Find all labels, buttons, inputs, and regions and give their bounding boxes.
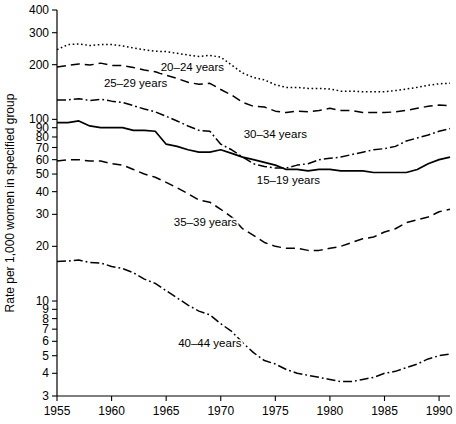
y-tick-label: 400 (29, 3, 49, 17)
series-line-40-44-years (57, 260, 450, 382)
y-tick-label: 30 (36, 207, 50, 221)
y-tick-label: 20 (36, 239, 50, 253)
series-label-15-19-years: 15–19 years (257, 174, 321, 186)
y-tick-label: 300 (29, 26, 49, 40)
series-label-layer: 20–24 years20–24 years25–29 years25–29 y… (104, 61, 320, 349)
x-tick-label: 1970 (207, 404, 234, 418)
x-tick-label: 1990 (426, 404, 453, 418)
series-label-25-29-years: 25–29 years (104, 77, 168, 89)
y-tick-label: 3 (42, 389, 49, 403)
y-tick-label: 40 (36, 185, 50, 199)
series-layer (57, 44, 450, 382)
y-tick-label: 50 (36, 167, 50, 181)
x-tick-label: 1960 (98, 404, 125, 418)
y-tick-label: 6 (42, 334, 49, 348)
y-tick-label: 200 (29, 58, 49, 72)
y-tick-label: 5 (42, 349, 49, 363)
y-tick-label: 4 (42, 366, 49, 380)
x-tick-label: 1965 (153, 404, 180, 418)
y-axis-title: Rate per 1,000 women in specified group (3, 93, 17, 312)
x-tick-label: 1975 (262, 404, 289, 418)
series-label-30-34-years: 30–34 years (244, 128, 308, 140)
x-tick-label: 1955 (44, 404, 71, 418)
series-label-35-39-years: 35–39 years (174, 216, 238, 228)
series-label-20-24-years: 20–24 years (161, 61, 225, 73)
y-axis-title-text: Rate per 1,000 women in specified group (3, 93, 17, 312)
x-tick-label: 1985 (371, 404, 398, 418)
series-label-40-44-years: 40–44 years (178, 337, 242, 349)
chart-figure: 4003002001009080706050403020109876543195… (0, 0, 456, 424)
x-tick-label: 1980 (317, 404, 344, 418)
rate-by-age-line-chart: 4003002001009080706050403020109876543195… (0, 0, 456, 424)
y-tick-label: 60 (36, 153, 50, 167)
